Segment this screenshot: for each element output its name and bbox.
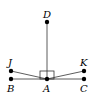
point-K — [82, 69, 86, 73]
label-K: K — [79, 57, 88, 68]
label-D: D — [42, 9, 51, 20]
label-B: B — [6, 83, 14, 94]
label-A: A — [42, 83, 50, 94]
point-A — [45, 77, 49, 81]
point-D — [45, 20, 49, 24]
point-J — [9, 69, 13, 73]
label-C: C — [80, 83, 88, 94]
geometry-diagram: D A B C J K — [0, 0, 95, 97]
label-J: J — [6, 57, 13, 68]
point-B — [9, 77, 13, 81]
segment-AK — [47, 71, 84, 79]
segment-AJ — [11, 71, 47, 79]
point-C — [82, 77, 86, 81]
